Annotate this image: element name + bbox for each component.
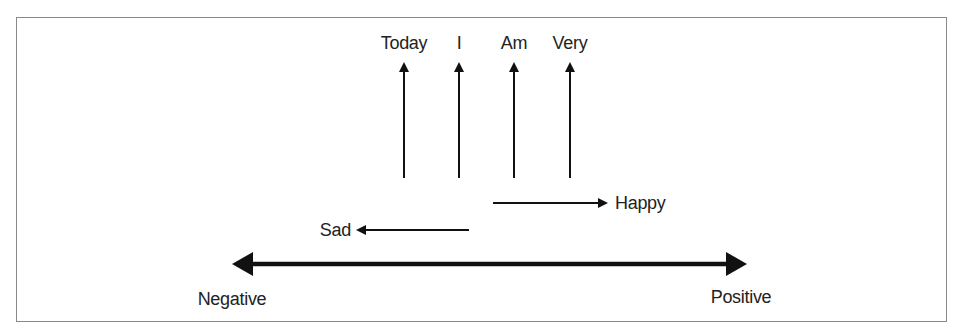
word-label-today: Today [381,33,428,53]
word-label-very: Very [553,33,588,53]
sentiment-diagram: Today I Am Very Happy Sad Negative Posit… [0,0,963,336]
axis-label-negative: Negative [198,289,267,309]
word-label-i: I [457,33,462,53]
happy-label: Happy [615,193,666,213]
sad-label: Sad [320,220,351,240]
axis-left-arrowhead [232,252,253,276]
word-label-am: Am [501,33,527,53]
axis-label-positive: Positive [711,287,772,307]
axis-right-arrowhead [726,252,747,276]
sentiment-axis [232,252,747,276]
